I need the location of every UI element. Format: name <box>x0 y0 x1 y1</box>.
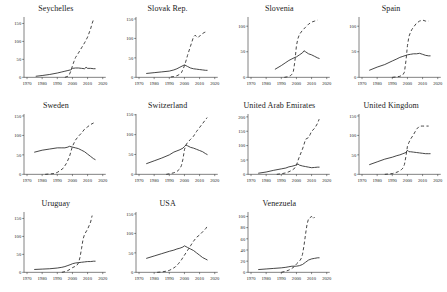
svg-text:1990: 1990 <box>164 178 174 183</box>
panel-plot: 050100150197019801990200020102020 <box>0 195 112 292</box>
svg-text:1970: 1970 <box>22 178 32 183</box>
svg-text:150: 150 <box>126 113 134 118</box>
svg-text:100: 100 <box>350 24 358 29</box>
svg-text:1980: 1980 <box>38 276 48 281</box>
series-fixed-line-solid <box>35 261 96 269</box>
svg-text:2020: 2020 <box>98 178 108 183</box>
svg-text:1980: 1980 <box>149 276 159 281</box>
series-mobile-dashed <box>166 118 207 175</box>
panel-venezuela: Venezuela0204060801001970198019902000201… <box>224 195 336 292</box>
svg-text:150: 150 <box>14 216 22 221</box>
svg-text:2000: 2000 <box>291 178 301 183</box>
svg-text:0: 0 <box>19 270 22 275</box>
svg-text:1990: 1990 <box>53 81 63 86</box>
svg-text:1970: 1970 <box>246 178 256 183</box>
series-mobile-dashed <box>157 226 207 272</box>
svg-text:40: 40 <box>240 247 245 252</box>
svg-text:2020: 2020 <box>322 81 332 86</box>
svg-text:2000: 2000 <box>180 81 190 86</box>
svg-text:2000: 2000 <box>68 81 78 86</box>
svg-text:60: 60 <box>240 236 245 241</box>
svg-text:100: 100 <box>14 133 22 138</box>
svg-text:1990: 1990 <box>388 81 398 86</box>
svg-text:150: 150 <box>126 17 134 22</box>
svg-text:100: 100 <box>350 133 358 138</box>
svg-text:150: 150 <box>238 129 246 134</box>
series-fixed-line-solid <box>370 53 431 70</box>
svg-text:2010: 2010 <box>195 178 205 183</box>
series-fixed-line-solid <box>146 246 207 260</box>
svg-text:0: 0 <box>354 172 357 177</box>
svg-text:1980: 1980 <box>373 178 383 183</box>
svg-text:100: 100 <box>14 234 22 239</box>
svg-text:1980: 1980 <box>373 81 383 86</box>
series-fixed-line-solid <box>146 145 207 164</box>
panel-plot: 050100150197019801990200020102020 <box>112 195 224 292</box>
svg-text:1980: 1980 <box>261 178 271 183</box>
svg-text:1970: 1970 <box>134 81 144 86</box>
panel-united-arab-emirates: United Arab Emirates05010015020019701980… <box>224 97 336 194</box>
svg-text:2000: 2000 <box>68 276 78 281</box>
svg-text:1970: 1970 <box>358 178 368 183</box>
svg-text:1990: 1990 <box>53 276 63 281</box>
svg-text:1980: 1980 <box>261 81 271 86</box>
svg-text:1980: 1980 <box>38 81 48 86</box>
svg-text:2000: 2000 <box>180 276 190 281</box>
svg-text:2000: 2000 <box>291 81 301 86</box>
svg-text:2000: 2000 <box>180 178 190 183</box>
svg-text:1970: 1970 <box>246 276 256 281</box>
svg-text:2020: 2020 <box>433 178 443 183</box>
svg-text:2020: 2020 <box>210 178 220 183</box>
svg-text:0: 0 <box>354 75 357 80</box>
svg-text:150: 150 <box>126 211 134 216</box>
panel-seychelles: Seychelles050100150197019801990200020102… <box>0 0 112 97</box>
svg-text:2010: 2010 <box>83 178 93 183</box>
svg-text:20: 20 <box>240 259 245 264</box>
svg-text:50: 50 <box>17 252 22 257</box>
svg-text:2020: 2020 <box>433 81 443 86</box>
svg-text:50: 50 <box>352 153 357 158</box>
svg-text:150: 150 <box>350 114 358 119</box>
series-fixed-line-solid <box>258 257 319 269</box>
svg-text:0: 0 <box>131 270 134 275</box>
svg-text:2010: 2010 <box>307 81 317 86</box>
series-mobile-dashed <box>276 119 318 174</box>
series-fixed-line-solid <box>146 65 207 74</box>
panel-plot: 050100197019801990200020102020 <box>224 0 336 97</box>
svg-text:1990: 1990 <box>276 276 286 281</box>
svg-text:1970: 1970 <box>22 276 32 281</box>
panel-plot: 050100150197019801990200020102020 <box>0 97 112 194</box>
svg-text:1980: 1980 <box>149 178 159 183</box>
series-fixed-line-solid <box>35 147 96 160</box>
svg-text:100: 100 <box>126 133 134 138</box>
svg-text:50: 50 <box>352 49 357 54</box>
svg-text:2010: 2010 <box>418 178 428 183</box>
svg-text:50: 50 <box>128 153 133 158</box>
svg-text:0: 0 <box>242 270 245 275</box>
svg-text:2010: 2010 <box>83 81 93 86</box>
svg-text:0: 0 <box>242 172 245 177</box>
panel-plot: 050100150197019801990200020102020 <box>0 0 112 97</box>
panel-slovak-rep: Slovak Rep.05010015019701980199020002010… <box>112 0 224 97</box>
svg-text:100: 100 <box>126 36 134 41</box>
svg-text:2010: 2010 <box>83 276 93 281</box>
svg-text:1990: 1990 <box>276 178 286 183</box>
panel-spain: Spain050100197019801990200020102020 <box>335 0 447 97</box>
svg-text:2020: 2020 <box>210 81 220 86</box>
panel-switzerland: Switzerland05010015019701980199020002010… <box>112 97 224 194</box>
svg-text:50: 50 <box>240 158 245 163</box>
svg-text:0: 0 <box>242 75 245 80</box>
svg-text:0: 0 <box>131 172 134 177</box>
panel-slovenia: Slovenia050100197019801990200020102020 <box>224 0 336 97</box>
panel-plot: 050100150197019801990200020102020 <box>335 97 447 194</box>
svg-text:2000: 2000 <box>68 178 78 183</box>
series-fixed-line-solid <box>275 51 319 69</box>
svg-text:100: 100 <box>238 214 246 219</box>
series-mobile-dashed <box>393 20 429 77</box>
svg-text:2000: 2000 <box>403 178 413 183</box>
series-mobile-dashed <box>62 215 92 272</box>
svg-text:1970: 1970 <box>134 276 144 281</box>
panel-plot: 020406080100197019801990200020102020 <box>224 195 336 292</box>
series-mobile-dashed <box>281 216 314 272</box>
svg-text:1990: 1990 <box>164 81 174 86</box>
